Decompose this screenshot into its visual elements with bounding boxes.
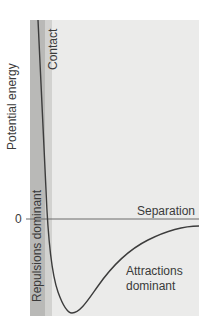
attractions-label-line2: dominant [126, 279, 183, 294]
y-axis-label: Potential energy [5, 63, 19, 150]
repulsions-dominant-label: Repulsions dominant [30, 190, 44, 302]
attractions-label-line1: Attractions [126, 264, 183, 279]
zero-tick-label: 0 [15, 212, 22, 227]
separation-label: Separation [137, 204, 195, 219]
attractions-dominant-label: Attractions dominant [126, 264, 183, 294]
contact-label: Contact [46, 29, 60, 70]
